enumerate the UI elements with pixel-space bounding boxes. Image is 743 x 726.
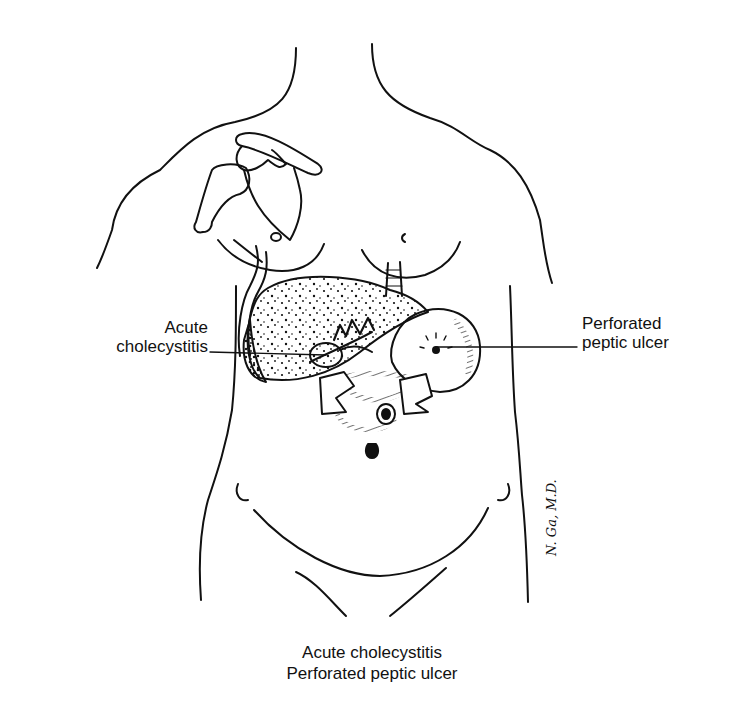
duodenum-and-retractors bbox=[320, 372, 432, 458]
liver bbox=[244, 277, 428, 382]
label-perforated-peptic-ulcer: Perforated peptic ulcer bbox=[582, 314, 712, 352]
caption-line1: Acute cholecystitis bbox=[200, 642, 544, 663]
label-left-line1: Acute bbox=[108, 318, 208, 337]
label-left-line2: cholecystitis bbox=[108, 337, 208, 356]
label-acute-cholecystitis: Acute cholecystitis bbox=[108, 318, 208, 356]
label-right-line1: Perforated bbox=[582, 314, 712, 333]
lower-abdomen bbox=[237, 484, 510, 616]
caption-line2: Perforated peptic ulcer bbox=[200, 663, 544, 684]
reflected-chest-wall bbox=[194, 133, 321, 240]
label-right-line2: peptic ulcer bbox=[582, 333, 712, 352]
ulcer-site bbox=[420, 333, 452, 353]
figure-caption: Acute cholecystitis Perforated peptic ul… bbox=[200, 642, 544, 684]
artist-signature: N. Ga, M.D. bbox=[544, 479, 559, 556]
anatomical-torso-illustration bbox=[0, 0, 743, 726]
